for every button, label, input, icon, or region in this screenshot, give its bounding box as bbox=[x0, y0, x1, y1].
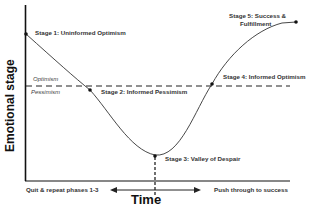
stage-5-label-line2: Fulfillment bbox=[240, 20, 271, 27]
stage-1-point bbox=[24, 32, 28, 36]
stage-5-label-line1: Stage 5: Success & bbox=[229, 12, 286, 19]
x-axis-label: Time bbox=[131, 192, 161, 207]
stage-1-label: Stage 1: Uninformed Optimism bbox=[35, 29, 126, 36]
push-arrowhead-icon bbox=[194, 187, 201, 193]
stage-4-label: Stage 4: Informed Optimism bbox=[223, 73, 306, 80]
stage-2-label: Stage 2: Informed Pessimism bbox=[101, 88, 187, 95]
push-outcome-label: Push through to success bbox=[214, 186, 288, 193]
optimism-zone-label: Optimism bbox=[33, 76, 58, 82]
stage-5-point bbox=[294, 20, 298, 24]
stage-3-label: Stage 3: Valley of Despair bbox=[165, 155, 240, 162]
y-axis-label: Emotional stage bbox=[3, 59, 17, 152]
pessimism-zone-label: Pessimism bbox=[31, 89, 60, 95]
quit-arrowhead-icon bbox=[110, 187, 117, 193]
quit-outcome-label: Quit & repeat phases 1-3 bbox=[26, 186, 99, 193]
stage-4-point bbox=[210, 82, 214, 86]
stage-2-point bbox=[88, 88, 92, 92]
